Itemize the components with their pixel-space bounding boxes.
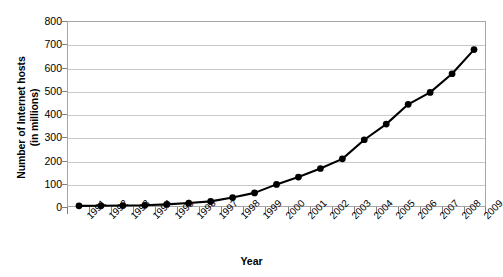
data-series-internet-hosts: [68, 22, 485, 206]
x-axis-tick-label: 2006: [416, 214, 423, 221]
x-axis-tick-label: 1997: [217, 214, 224, 221]
y-axis-tick-label: 300: [34, 132, 62, 143]
x-axis-tick: [67, 207, 68, 214]
y-axis-tick-label: 700: [34, 39, 62, 50]
data-point-marker: [427, 89, 434, 96]
data-point-marker: [295, 174, 302, 181]
data-point-marker: [471, 46, 478, 53]
y-axis-tick-label: 400: [34, 109, 62, 120]
data-point-marker: [339, 155, 346, 162]
y-axis-tick-labels: 8007006005004003002001000: [28, 0, 62, 277]
x-axis-tick-labels: 1991199219931994199519961997199819992000…: [67, 214, 486, 254]
data-point-marker: [383, 121, 390, 128]
y-axis-tick-label: 0: [34, 202, 62, 213]
x-axis-tick-label: 2008: [460, 214, 467, 221]
x-axis-tick-label: 1999: [261, 214, 268, 221]
x-axis-tick-label: 2009: [482, 214, 489, 221]
x-axis-tick-label: 1992: [107, 214, 114, 221]
y-axis-tick-label: 200: [34, 156, 62, 167]
data-point-marker: [273, 181, 280, 188]
x-axis-tick-label: 2001: [306, 214, 313, 221]
x-axis-tick-label: 2003: [350, 214, 357, 221]
x-axis-title: Year: [0, 255, 503, 267]
x-axis-tick-label: 2000: [284, 214, 291, 221]
x-axis-tick-label: 2004: [372, 214, 379, 221]
x-axis-tick-label: 1996: [195, 214, 202, 221]
series-markers: [76, 46, 478, 209]
x-axis-tick-label: 1998: [239, 214, 246, 221]
x-axis-tick-label: 1991: [85, 214, 92, 221]
x-axis-tick-label: 2002: [328, 214, 335, 221]
plot-area: [67, 21, 486, 207]
x-axis-tick-label: 2005: [394, 214, 401, 221]
data-point-marker: [361, 136, 368, 143]
x-axis-tick-label: 1995: [173, 214, 180, 221]
y-axis-tick-label: 500: [34, 86, 62, 97]
data-point-marker: [251, 190, 258, 197]
x-axis-tick-label: 1993: [129, 214, 136, 221]
y-axis-tick-label: 100: [34, 179, 62, 190]
y-axis-tick-label: 800: [34, 16, 62, 27]
x-axis-tick-label: 1994: [151, 214, 158, 221]
data-point-marker: [449, 70, 456, 77]
y-axis-tick-label: 600: [34, 63, 62, 74]
x-axis-tick-label: 2007: [438, 214, 445, 221]
data-point-marker: [317, 165, 324, 172]
internet-hosts-line-chart: Number of Internet hosts (in millions) 8…: [0, 0, 503, 277]
data-point-marker: [405, 101, 412, 108]
